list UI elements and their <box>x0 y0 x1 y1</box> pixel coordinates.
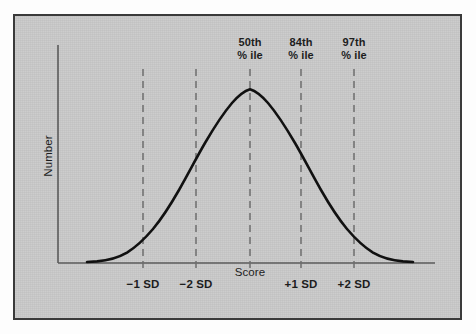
sd-label-plus-1: +1 SD <box>285 278 318 291</box>
x-axis-title: Score <box>235 266 266 279</box>
percentile-label-97th-line1: 97th <box>342 36 365 48</box>
y-axis-title: Number <box>42 135 55 177</box>
sd-label-minus-1: −1 SD <box>127 278 160 291</box>
percentile-label-50th-line1: 50th <box>238 36 261 48</box>
figure-frame: 50th% ile 84th% ile 97th% ile −1 SD −2 S… <box>13 14 462 320</box>
sd-label-plus-2: +2 SD <box>338 278 371 291</box>
percentile-label-97th-line2: % ile <box>341 49 367 61</box>
percentile-label-97th: 97th% ile <box>341 36 367 61</box>
figure-root: 50th% ile 84th% ile 97th% ile −1 SD −2 S… <box>0 0 476 334</box>
percentile-label-84th-line1: 84th <box>289 36 312 48</box>
percentile-label-84th-line2: % ile <box>288 49 314 61</box>
sd-label-minus-2: −2 SD <box>180 278 213 291</box>
percentile-label-50th: 50th% ile <box>237 36 263 61</box>
percentile-label-84th: 84th% ile <box>288 36 314 61</box>
percentile-label-50th-line2: % ile <box>237 49 263 61</box>
normal-distribution-curve <box>87 89 413 262</box>
